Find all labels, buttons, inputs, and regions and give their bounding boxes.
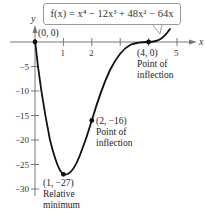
point-relative-minimum [61,172,66,177]
y-axis-label: y [30,13,36,24]
callout-tail [152,24,162,34]
y-tick-neg30: −30 [15,184,30,194]
point-origin [33,40,38,45]
y-tick-neg20: −20 [15,135,30,145]
x-tick-2: 2 [89,48,94,58]
x-axis-label: x [198,36,204,47]
label-inflection1-note1: Point of [96,127,127,137]
function-graph: x y 1 2 5 −5 −10 −15 −20 −25 −30 (0, 0) … [0,0,205,218]
y-tick-neg15: −15 [15,111,30,121]
function-formula-callout: f(x) = x⁴ − 12x³ + 48x² − 64x [43,3,181,25]
y-tick-neg10: −10 [15,86,30,96]
y-tick-neg5: −5 [19,62,29,72]
label-inflection1-coords: (2, −16) [96,116,127,127]
x-tick-5: 5 [174,48,179,58]
label-inflection2-coords: (4, 0) [137,48,158,59]
y-tick-neg25: −25 [15,160,30,170]
label-inflection1-note2: inflection [96,138,133,148]
label-min-note1: Relative [43,189,75,199]
point-inflection-2 [146,40,151,45]
label-origin: (0, 0) [38,28,59,39]
label-min-note2: minimum [43,200,81,210]
y-axis-arrow-icon [33,25,38,33]
formula-text: f(x) = x⁴ − 12x³ + 48x² − 64x [51,8,174,19]
label-inflection2-note2: inflection [137,70,174,80]
x-axis-arrow-icon [189,40,197,45]
label-inflection2-note1: Point of [137,59,168,69]
x-tick-1: 1 [61,48,66,58]
label-min-coords: (1, −27) [43,178,74,189]
point-inflection-1 [89,118,94,123]
